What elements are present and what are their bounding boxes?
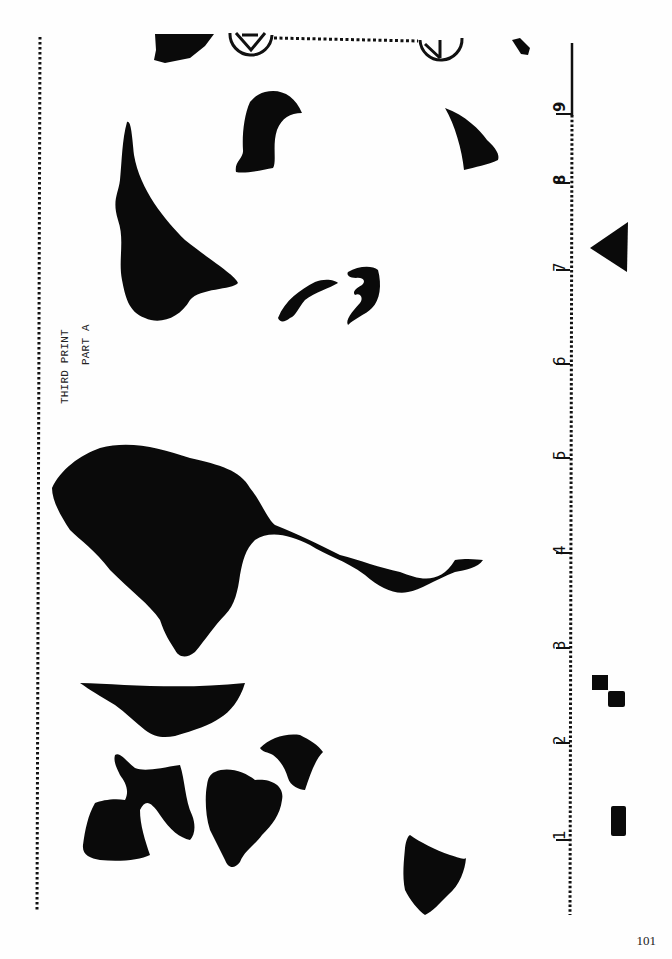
triangle-marker [590, 222, 628, 272]
top-left-partial-shape [154, 34, 214, 63]
crescent-shape-upper [236, 91, 302, 173]
circle-y-registration-mark [420, 38, 462, 60]
squiggle-right [347, 267, 380, 325]
circle-x-registration-mark [230, 33, 272, 55]
horn-shape [115, 122, 238, 321]
title-third-print: THIRD PRINT [59, 329, 71, 404]
registration-dotted-line [274, 38, 418, 41]
crescent-shape-right [445, 108, 499, 170]
print-template-artwork [0, 0, 672, 959]
left-dotted-border [37, 37, 40, 910]
squiggle-left [278, 280, 338, 322]
ruler-mark-1: 1 [551, 830, 569, 840]
large-main-shape [52, 445, 483, 657]
ruler-mark-7: 7 [551, 262, 569, 272]
top-right-fleck [512, 38, 530, 55]
document-page: THIRD PRINT PART A 1 2 3 4 5 6 7 8 9 101 [0, 0, 672, 959]
ruler-mark-8: 8 [551, 175, 569, 185]
ruler-mark-4: 4 [551, 545, 569, 555]
square-marker-top [592, 675, 608, 690]
title-part-a: PART A [80, 324, 92, 365]
leaf-shape [206, 770, 283, 868]
ruler-mark-5: 5 [551, 450, 569, 460]
page-number: 101 [637, 933, 657, 949]
ruler-mark-9: 9 [551, 102, 569, 112]
rect-marker [611, 806, 626, 836]
ruler-mark-6: 6 [551, 356, 569, 366]
ruler-dotted-line [570, 115, 572, 915]
bowl-shape [80, 683, 245, 737]
arm-shape [83, 754, 195, 860]
shard-shape [403, 835, 466, 915]
ruler-mark-2: 2 [551, 735, 569, 745]
square-marker-bottom [608, 691, 625, 707]
ruler-mark-3: 3 [551, 640, 569, 650]
